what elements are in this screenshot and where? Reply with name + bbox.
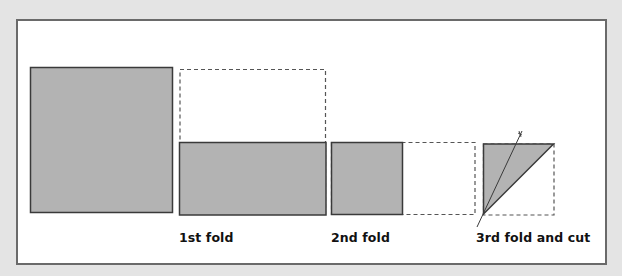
- fold-1-folded-rectangle: [180, 143, 327, 216]
- fold-2-folded-square: [332, 143, 403, 215]
- fold-3-folded-triangle: [484, 144, 554, 214]
- step-original: [31, 68, 173, 213]
- label-3rd-fold-and-cut: 3rd fold and cut: [476, 230, 590, 245]
- original-square: [31, 68, 173, 213]
- step-fold-2: [332, 143, 476, 215]
- label-2nd-fold: 2nd fold: [331, 230, 390, 245]
- step-fold-3-cut: [477, 131, 554, 227]
- step-fold-1: [180, 70, 327, 216]
- label-1st-fold: 1st fold: [179, 230, 234, 245]
